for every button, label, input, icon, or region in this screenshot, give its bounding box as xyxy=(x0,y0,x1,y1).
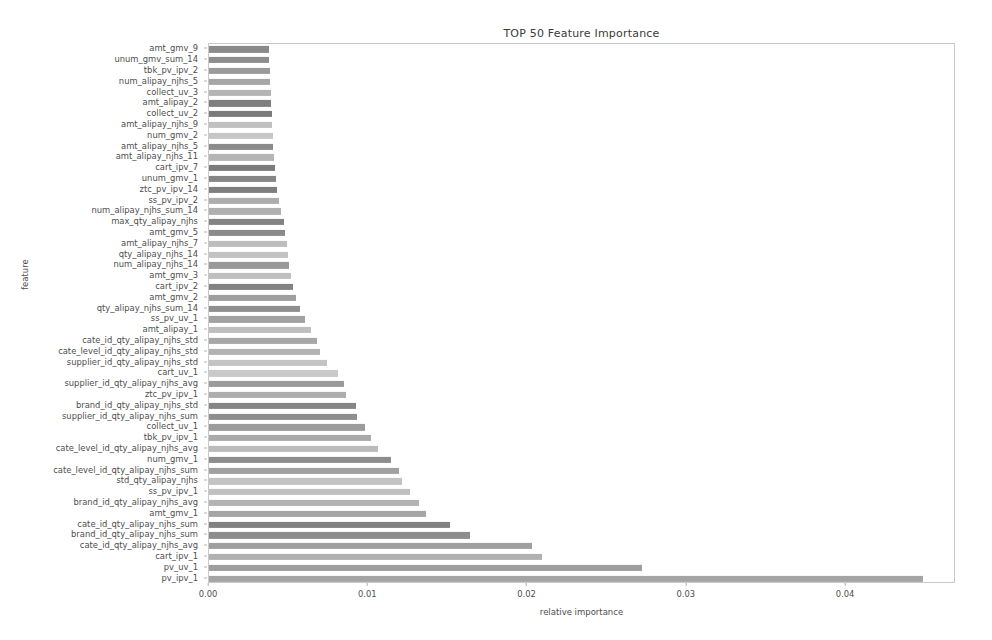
y-tick-mark xyxy=(204,286,207,287)
bar-series xyxy=(209,44,954,582)
y-tick-mark xyxy=(204,124,207,125)
y-tick-label: num_alipay_njhs_sum_14 xyxy=(91,206,198,215)
bar xyxy=(209,154,274,160)
y-tick-mark xyxy=(204,275,207,276)
y-tick-mark xyxy=(204,145,207,146)
bar-row xyxy=(209,238,954,249)
bar-row xyxy=(209,141,954,152)
bar xyxy=(209,230,285,236)
bar xyxy=(209,316,305,322)
y-tick-mark xyxy=(204,545,207,546)
y-tick-label: max_qty_alipay_njhs xyxy=(111,217,198,226)
bar-row xyxy=(209,44,954,55)
bar-row xyxy=(209,390,954,401)
bar-row xyxy=(209,66,954,77)
bar xyxy=(209,478,402,484)
bar xyxy=(209,554,542,560)
bar-row xyxy=(209,346,954,357)
x-tick-mark xyxy=(208,583,209,586)
y-tick-mark xyxy=(204,242,207,243)
y-tick-label: ss_pv_ipv_2 xyxy=(149,195,199,204)
bar xyxy=(209,219,284,225)
bar xyxy=(209,197,279,203)
y-tick-mark xyxy=(204,426,207,427)
y-tick-label: ss_pv_ipv_1 xyxy=(149,487,199,496)
bar xyxy=(209,359,327,365)
y-tick-mark xyxy=(204,491,207,492)
x-tick-label: 0.02 xyxy=(517,589,536,599)
y-tick-label: pv_uv_1 xyxy=(164,562,198,571)
y-tick-label: unum_gmv_1 xyxy=(142,174,198,183)
bar-row xyxy=(209,541,954,552)
bar-row xyxy=(209,217,954,228)
x-tick-mark xyxy=(685,583,686,586)
bar-row xyxy=(209,433,954,444)
y-tick-label: cate_level_id_qty_alipay_njhs_sum xyxy=(53,465,198,474)
y-tick-mark xyxy=(204,102,207,103)
bar xyxy=(209,57,269,63)
y-tick-mark xyxy=(204,167,207,168)
y-tick-label: ztc_pv_ipv_1 xyxy=(145,390,198,399)
y-tick-label: amt_gmv_9 xyxy=(149,44,198,53)
bar xyxy=(209,467,399,473)
bar-row xyxy=(209,465,954,476)
y-tick-label: amt_alipay_2 xyxy=(143,98,198,107)
bar-row xyxy=(209,368,954,379)
x-tick-mark xyxy=(367,583,368,586)
bar-row xyxy=(209,444,954,455)
y-tick-label: collect_uv_3 xyxy=(147,87,198,96)
y-tick-label: collect_uv_2 xyxy=(147,109,198,118)
bar-row xyxy=(209,562,954,573)
y-tick-mark xyxy=(204,113,207,114)
y-tick-mark xyxy=(204,48,207,49)
x-tick: 0.03 xyxy=(676,583,695,599)
bar xyxy=(209,489,410,495)
y-tick-label: cate_id_qty_alipay_njhs_std xyxy=(82,336,198,345)
bar-row xyxy=(209,357,954,368)
y-tick-label: num_gmv_2 xyxy=(147,130,198,139)
bar-row xyxy=(209,422,954,433)
bar-row xyxy=(209,411,954,422)
y-tick-mark xyxy=(204,534,207,535)
y-tick-mark xyxy=(204,556,207,557)
y-tick-label: std_qty_alipay_njhs xyxy=(116,476,198,485)
bar xyxy=(209,100,271,106)
y-tick-label: cart_uv_1 xyxy=(158,368,198,377)
y-tick-label: num_alipay_njhs_14 xyxy=(114,260,199,269)
y-tick-label: num_alipay_njhs_5 xyxy=(119,76,198,85)
bar xyxy=(209,543,532,549)
bar xyxy=(209,521,450,527)
y-tick-label: supplier_id_qty_alipay_njhs_sum xyxy=(62,411,198,420)
bar xyxy=(209,122,272,128)
y-tick-mark xyxy=(204,437,207,438)
bar-row xyxy=(209,573,954,583)
bar xyxy=(209,133,273,139)
bar xyxy=(209,79,270,85)
x-tick-label: 0.00 xyxy=(199,589,218,599)
y-tick-label: qty_alipay_njhs_14 xyxy=(119,249,198,258)
bar-row xyxy=(209,120,954,131)
x-tick-label: 0.04 xyxy=(836,589,855,599)
bar-row xyxy=(209,206,954,217)
y-tick-label: cart_ipv_1 xyxy=(155,552,198,561)
bar xyxy=(209,457,391,463)
bar xyxy=(209,392,346,398)
y-axis-tick-labels: amt_gmv_9unum_gmv_sum_14tbk_pv_ipv_2num_… xyxy=(0,43,204,583)
bar xyxy=(209,295,296,301)
bar-row xyxy=(209,195,954,206)
y-tick-mark xyxy=(204,80,207,81)
bar xyxy=(209,424,365,430)
y-tick-label: amt_gmv_1 xyxy=(149,508,198,517)
x-axis-tick-labels: 0.000.010.020.030.04 xyxy=(208,583,955,609)
bar-row xyxy=(209,184,954,195)
bar-row xyxy=(209,163,954,174)
y-tick-mark xyxy=(204,350,207,351)
bar xyxy=(209,208,281,214)
y-tick-mark xyxy=(204,70,207,71)
y-tick-label: brand_id_qty_alipay_njhs_sum xyxy=(71,530,198,539)
y-tick-mark xyxy=(204,448,207,449)
bar-row xyxy=(209,109,954,120)
y-tick-label: qty_alipay_njhs_sum_14 xyxy=(97,303,198,312)
bar-row xyxy=(209,552,954,563)
y-tick-label: cate_level_id_qty_alipay_njhs_avg xyxy=(56,444,198,453)
